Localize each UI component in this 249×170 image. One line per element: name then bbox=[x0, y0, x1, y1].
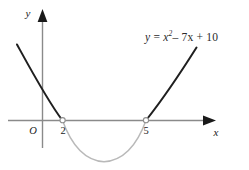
tick-label-2: 2 bbox=[60, 125, 65, 136]
tick-label-5: 5 bbox=[143, 125, 148, 136]
graph-canvas: y x O 2 5 bbox=[0, 0, 249, 170]
x-axis-label: x bbox=[213, 126, 219, 138]
x-axis-arrowhead bbox=[203, 116, 216, 126]
equation-equals: = bbox=[153, 31, 160, 43]
curve-right-branch bbox=[146, 48, 196, 121]
equation-remainder: – 7x + 10 bbox=[172, 31, 218, 43]
parabola-arc-below-axis bbox=[63, 121, 147, 162]
y-axis-arrowhead bbox=[38, 9, 48, 22]
root-marker-5 bbox=[143, 118, 148, 123]
graph-figure: y x O 2 5 y = x2– 7x + 10 bbox=[0, 0, 249, 170]
root-marker-2 bbox=[60, 118, 65, 123]
y-axis-label: y bbox=[25, 7, 31, 19]
equation-label: y = x2– 7x + 10 bbox=[145, 31, 218, 43]
curve-left-branch bbox=[17, 45, 62, 121]
origin-label: O bbox=[29, 125, 37, 136]
